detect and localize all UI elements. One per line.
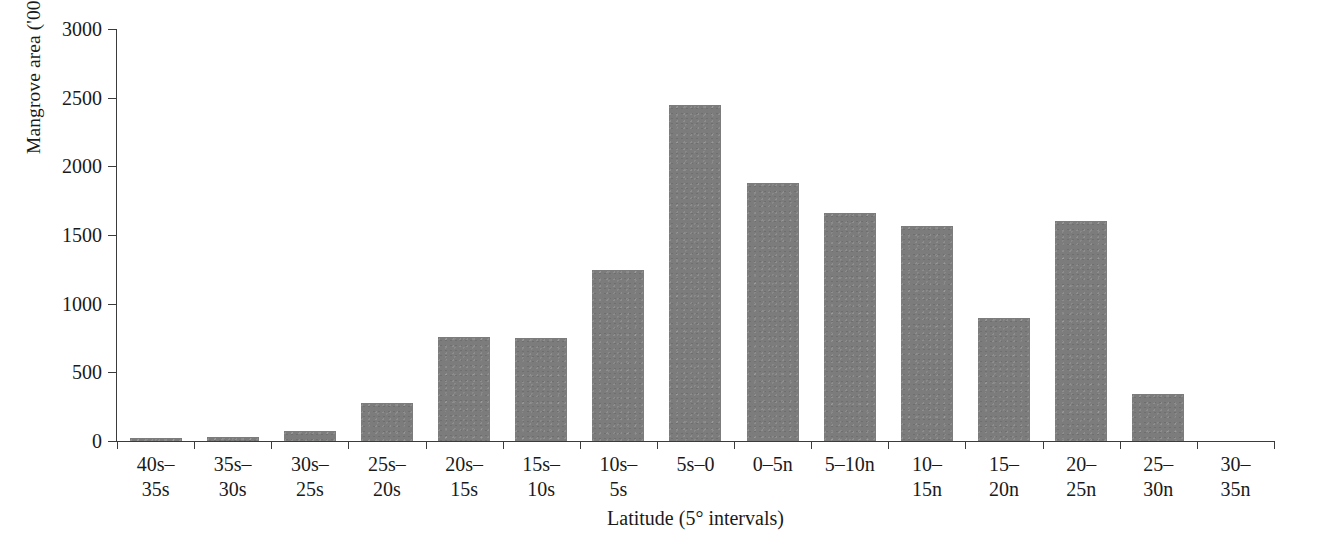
x-tick-mark	[811, 441, 812, 449]
x-tick-mark	[965, 441, 966, 449]
x-tick-mark	[503, 441, 504, 449]
x-tick-mark	[1120, 441, 1121, 449]
x-axis-title: Latitude (5° intervals)	[117, 505, 1274, 531]
y-tick-label: 0	[44, 431, 102, 451]
bar[interactable]	[438, 337, 490, 441]
bar-slot	[348, 29, 425, 441]
bar-slot	[503, 29, 580, 441]
y-tick-mark	[108, 372, 116, 373]
x-tick-mark	[580, 441, 581, 449]
bar[interactable]	[515, 338, 567, 441]
x-tick-mark	[1043, 441, 1044, 449]
bar-slot	[117, 29, 194, 441]
x-tick-label: 30– 35n	[1190, 452, 1280, 502]
y-tick-label: 3000	[44, 19, 102, 39]
y-tick-label: 1500	[44, 225, 102, 245]
bar[interactable]	[669, 105, 721, 441]
x-tick-mark	[657, 441, 658, 449]
x-axis-tick-labels: 40s– 35s35s– 30s30s– 25s25s– 20s20s– 15s…	[117, 452, 1274, 512]
bar[interactable]	[1132, 394, 1184, 441]
y-tick-mark	[108, 166, 116, 167]
bar-slot	[888, 29, 965, 441]
x-tick-mark	[348, 441, 349, 449]
bar[interactable]	[1055, 221, 1107, 441]
bar-slot	[811, 29, 888, 441]
x-tick-mark	[117, 441, 118, 449]
bar-slot	[580, 29, 657, 441]
bar[interactable]	[361, 403, 413, 441]
bar-slot	[1043, 29, 1120, 441]
bar-slot	[734, 29, 811, 441]
bar[interactable]	[901, 226, 953, 441]
bar[interactable]	[592, 270, 644, 441]
bar[interactable]	[978, 318, 1030, 441]
bar-slot	[426, 29, 503, 441]
y-tick-mark	[108, 441, 116, 442]
y-axis-tick-labels: 050010001500200025003000	[44, 0, 102, 555]
bar-slot	[1197, 29, 1274, 441]
x-tick-mark	[426, 441, 427, 449]
y-tick-mark	[108, 29, 116, 30]
y-tick-label: 1000	[44, 294, 102, 314]
bar[interactable]	[284, 431, 336, 441]
bar-slot	[271, 29, 348, 441]
plot-area	[117, 29, 1274, 441]
bar-slot	[965, 29, 1042, 441]
x-tick-mark	[1197, 441, 1198, 449]
y-tick-mark	[108, 235, 116, 236]
y-tick-label: 2500	[44, 88, 102, 108]
bar-slot	[1120, 29, 1197, 441]
x-tick-mark	[194, 441, 195, 449]
bar[interactable]	[824, 213, 876, 441]
x-tick-mark	[888, 441, 889, 449]
bar[interactable]	[747, 183, 799, 441]
y-tick-mark	[108, 98, 116, 99]
y-tick-label: 2000	[44, 156, 102, 176]
y-tick-mark	[108, 304, 116, 305]
y-tick-label: 500	[44, 362, 102, 382]
bar-slot	[657, 29, 734, 441]
x-tick-mark	[1274, 441, 1275, 449]
x-tick-mark	[271, 441, 272, 449]
bar-chart: Mangrove area ('000 Ha) 0500100015002000…	[0, 0, 1326, 555]
bar-slot	[194, 29, 271, 441]
x-axis-tick-marks	[116, 441, 1274, 451]
x-tick-mark	[734, 441, 735, 449]
